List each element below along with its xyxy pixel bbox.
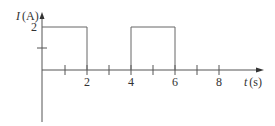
- x-axis-label: t(s): [244, 75, 262, 89]
- current-waveform-chart: I(A) 2 2 4 6 8 t(s): [0, 0, 275, 126]
- y-tick-label-2: 2: [31, 20, 37, 34]
- pulse-1: [42, 27, 87, 70]
- x-tick-label-2: 2: [84, 75, 90, 89]
- x-tick-label-8: 8: [216, 75, 222, 89]
- x-tick-label-4: 4: [128, 75, 134, 89]
- x-tick-label-6: 6: [172, 75, 178, 89]
- y-axis-arrow-icon: [40, 12, 45, 19]
- pulse-2: [131, 27, 175, 70]
- x-axis-arrow-icon: [256, 68, 264, 73]
